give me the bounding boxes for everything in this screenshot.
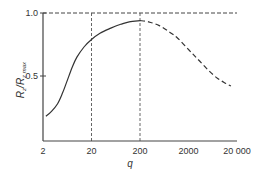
y-axis-title: Rz/Rz max bbox=[15, 61, 27, 98]
x-tick-label: 20 bbox=[86, 146, 96, 156]
x-tick-label: 2 bbox=[40, 146, 45, 156]
y-tick-label: 1.0 bbox=[25, 8, 38, 18]
axes bbox=[40, 13, 237, 141]
y-tick-label: 0.5 bbox=[25, 71, 38, 81]
x-tick-label: 2000 bbox=[178, 146, 198, 156]
data-series bbox=[46, 21, 231, 117]
x-axis-title: q bbox=[127, 158, 133, 169]
svg-text:Rz/Rz max: Rz/Rz max bbox=[15, 61, 27, 98]
tick-labels: 0.51.0220200200020 000 bbox=[25, 8, 250, 156]
chart: 0.51.0220200200020 000 q Rz/Rz max bbox=[0, 0, 262, 169]
x-tick-label: 200 bbox=[132, 146, 147, 156]
x-tick-label: 20 000 bbox=[223, 146, 251, 156]
series-extrapolated bbox=[140, 21, 231, 87]
series-measured bbox=[46, 21, 140, 117]
reference-lines bbox=[43, 13, 237, 141]
